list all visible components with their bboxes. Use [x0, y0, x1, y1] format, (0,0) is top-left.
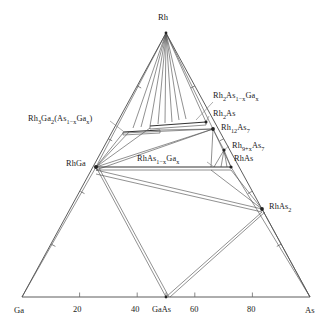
label-rh12as7: Rh12As7	[221, 124, 250, 132]
tie-rhga-ga	[22, 167, 96, 297]
leader-rh3ga2	[110, 121, 123, 131]
tie-rhga-rhas2	[96, 170, 262, 209]
formula-rh2as-mid: As	[226, 109, 235, 118]
formula-rhasga-sub2: x	[176, 158, 179, 165]
label-rh-apex: Rh	[158, 12, 168, 22]
formula-rh3ga2-sub3: 1−x	[66, 118, 76, 125]
formula-rh2asga-sub2: 1−x	[236, 95, 246, 102]
ternary-plot-svg	[0, 0, 333, 334]
label-rhas: RhAs	[234, 155, 253, 163]
formula-rhas2-sub1: 2	[288, 206, 291, 213]
formula-rh2asga-mid: As	[226, 91, 235, 100]
tie-rhga-gaas-b	[99, 168, 169, 297]
node-rh2as	[205, 121, 208, 124]
tie-rhga-gaas	[96, 167, 166, 297]
label-as-corner: As	[305, 305, 315, 315]
node-rhga	[94, 165, 98, 169]
formula-rh3ga2-pre: Rh	[28, 114, 38, 123]
formula-rh9as7-sub1: 9+x	[242, 145, 252, 152]
formula-rh3ga2-mid2: Ga	[76, 114, 86, 123]
ternary-diagram: Rh Ga As 20 40 GaAs 60 80 Rh3Ga2(As1−xGa…	[0, 0, 333, 334]
tie-rh-rh3ga2b	[141, 33, 166, 127]
formula-rh9as7-mid: As	[252, 141, 261, 150]
tie-rh12as7-rhas-left	[211, 129, 213, 167]
label-tick-gaas: GaAs	[152, 305, 171, 314]
label-tick-40: 40	[131, 305, 139, 314]
label-rhasga-solid-solution: RhAs1−xGax	[137, 155, 179, 163]
formula-rhasga-pre: RhAs	[137, 154, 156, 163]
formula-rh2asga-pre: Rh	[213, 91, 223, 100]
tie-rh-rhga	[96, 33, 166, 167]
node-rh-apex	[165, 32, 168, 35]
tie-rhas2-gaas	[166, 212, 262, 297]
formula-rhasga-mid: Ga	[166, 154, 176, 163]
formula-rh2asga-mid2: Ga	[246, 91, 256, 100]
formula-rhas2-pre: RhAs	[269, 202, 288, 211]
tie-rh-rh2as	[166, 33, 206, 122]
label-rh3ga2-solid-solution: Rh3Ga2(As1−xGax)	[28, 115, 92, 123]
formula-rh3ga2-mid: Ga	[41, 114, 51, 123]
node-rh9as7	[222, 148, 225, 151]
rhas-solid-solution-row	[96, 167, 231, 170]
tie-rh-rh3ga2	[133, 33, 166, 128]
tick-right-40	[220, 139, 224, 141]
tie-rh9as7-rhas	[224, 150, 231, 167]
node-gaas	[165, 296, 168, 299]
lower-network-tielines	[166, 167, 310, 297]
formula-rhasga-sub1: 1−x	[156, 158, 166, 165]
formula-rh12as7-mid: As	[237, 123, 246, 132]
formula-rh2as-pre: Rh	[213, 109, 223, 118]
formula-rh9as7-pre: Rh	[232, 141, 242, 150]
tie-rhas2-as	[262, 209, 310, 297]
rh-apex-tielines	[96, 33, 213, 167]
formula-rh3ga2-close: )	[90, 114, 93, 123]
tie-rhga-rhas2-b	[96, 174, 262, 212]
tie-rh-mid3	[165, 33, 166, 123]
label-ga-corner: Ga	[14, 305, 24, 315]
formula-rh2asga-sub3: x	[255, 95, 258, 102]
formula-rh12as7-pre: Rh	[221, 123, 231, 132]
tie-rhas2-gaas-b	[170, 212, 265, 297]
label-rh9as7: Rh9+xAs7	[232, 142, 265, 150]
formula-rh12as7-sub2: 7	[247, 127, 250, 134]
label-rhga: RhGa	[66, 160, 86, 168]
right-edge-ticks	[191, 86, 281, 247]
formula-rh9as7-sub2: 7	[261, 145, 264, 152]
tie-rh12as7-rhasga	[96, 129, 213, 170]
label-tick-80: 80	[247, 305, 255, 314]
tie-rhas-rhas2	[231, 170, 262, 209]
leader-rhasga	[207, 162, 214, 167]
label-rh2as: Rh2As	[213, 110, 236, 118]
tie-rh9as7-rhas-d	[224, 150, 227, 167]
label-tick-60: 60	[190, 305, 198, 314]
rh9as7-cluster	[214, 150, 231, 167]
label-rhas2: RhAs2	[269, 203, 292, 211]
node-rhas2	[260, 207, 264, 211]
node-rhas	[229, 165, 232, 168]
node-rh12as7	[211, 127, 215, 131]
label-rh2asga-solid-solution: Rh2As1−xGax	[213, 92, 259, 100]
formula-rh3ga2-open: (As	[54, 114, 66, 123]
label-tick-20: 20	[73, 305, 81, 314]
